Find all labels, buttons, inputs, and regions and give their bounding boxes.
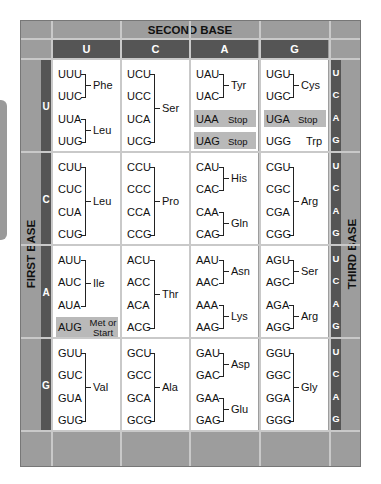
- codon: GGC: [266, 369, 291, 381]
- bracket: [219, 353, 224, 377]
- codon: UAG: [196, 135, 220, 147]
- codon-cell: UUUUUCUUAUUGPheLeu: [53, 60, 120, 151]
- bracket: [219, 398, 224, 422]
- side-tab[interactable]: [0, 100, 7, 240]
- amino-acid-label: Ile: [93, 277, 105, 289]
- stop-label: Stop: [228, 136, 248, 148]
- codon: CUG: [58, 228, 82, 240]
- codon-cell: GAUGACGAAGAGAspGlu: [191, 339, 258, 430]
- third-base-letter-c: C: [331, 89, 341, 100]
- bracket-tick: [224, 316, 229, 317]
- codon: UUC: [58, 90, 82, 102]
- first-base-bar-c: C: [41, 153, 51, 244]
- codon: GAG: [196, 414, 220, 426]
- first-base-label-text: FIRST BASE: [25, 220, 37, 288]
- third-base-label: THIRD BASE: [344, 199, 360, 309]
- amino-acid-label: Asn: [231, 265, 250, 277]
- codon: GUU: [58, 347, 82, 359]
- codon: UCG: [127, 135, 151, 147]
- codon: GGA: [266, 392, 290, 404]
- codon: CGA: [266, 206, 290, 218]
- codon: AGU: [266, 254, 290, 266]
- bracket: [81, 260, 86, 307]
- bracket: [81, 353, 86, 422]
- amino-acid-label: Leu: [93, 195, 111, 207]
- codon: AUG: [58, 321, 82, 333]
- first-base-bar-g: G: [41, 339, 51, 430]
- codon: UGG: [266, 135, 291, 147]
- bracket-tick: [294, 387, 299, 388]
- codon: AUC: [58, 276, 81, 288]
- amino-acid-label: Phe: [93, 79, 113, 91]
- codon: AUA: [58, 299, 81, 311]
- codon: CUC: [58, 183, 82, 195]
- codon: CUA: [58, 206, 81, 218]
- codon: AAU: [196, 254, 219, 266]
- codon: GCC: [127, 369, 151, 381]
- bracket: [289, 353, 294, 422]
- bracket: [219, 212, 224, 236]
- codon: UCC: [127, 90, 151, 102]
- codon-cell: AAUAACAAAAAGAsnLys: [191, 246, 258, 337]
- second-base-header-a: A: [191, 40, 258, 58]
- codon: CGC: [266, 183, 290, 195]
- third-base-bar: UCAG: [331, 246, 341, 337]
- bracket-tick: [224, 409, 229, 410]
- codon: CAA: [196, 206, 219, 218]
- amino-acid-label: Leu: [93, 124, 111, 136]
- codon-cell: UAUUACUAAStopUAGStopTyr: [191, 60, 258, 151]
- first-base-letter: U: [41, 100, 51, 111]
- bracket-tick: [224, 364, 229, 365]
- codon: GCU: [127, 347, 151, 359]
- stop-label: Stop: [228, 114, 248, 126]
- codon-cell: GGUGGCGGAGGGGly: [261, 339, 328, 430]
- third-base-letter-u: U: [331, 160, 341, 171]
- codon: CUU: [58, 161, 82, 173]
- codon-cell: CGUCGCCGACGGArg: [261, 153, 328, 244]
- bracket-tick: [155, 201, 160, 202]
- codon: AAC: [196, 276, 219, 288]
- bracket-tick: [294, 201, 299, 202]
- third-base-letter-u: U: [331, 67, 341, 78]
- amino-acid-label: Ala: [162, 381, 178, 393]
- codon: UGU: [266, 68, 290, 80]
- codon: AGA: [266, 299, 289, 311]
- amino-acid-label: Met or Start: [89, 318, 117, 338]
- bracket: [219, 305, 224, 329]
- bracket-tick: [294, 271, 299, 272]
- codon: ACA: [127, 299, 150, 311]
- bracket: [289, 74, 294, 98]
- codon: ACU: [127, 254, 150, 266]
- amino-acid-label: Trp: [306, 135, 322, 147]
- bracket: [219, 74, 224, 98]
- codon: UUU: [58, 68, 82, 80]
- third-base-letter-a: A: [331, 112, 341, 123]
- third-base-letter-g: G: [331, 134, 341, 145]
- amino-acid-label: Thr: [162, 288, 179, 300]
- third-base-letter-c: C: [331, 275, 341, 286]
- bracket-tick: [224, 271, 229, 272]
- amino-acid-label: Ser: [301, 265, 318, 277]
- bracket-tick: [224, 223, 229, 224]
- codon: CCU: [127, 161, 151, 173]
- codon: CCA: [127, 206, 150, 218]
- bracket-tick: [86, 387, 91, 388]
- codon: UCU: [127, 68, 151, 80]
- third-base-label-text: THIRD BASE: [346, 219, 358, 289]
- bracket: [81, 119, 86, 143]
- bracket-tick: [86, 130, 91, 131]
- codon: AUU: [58, 254, 81, 266]
- amino-acid-label: Asp: [231, 358, 250, 370]
- amino-acid-label: Cys: [301, 79, 320, 91]
- bracket: [150, 74, 155, 143]
- bracket: [289, 305, 294, 329]
- amino-acid-label: Tyr: [231, 79, 246, 91]
- codon-cell: AUUAUCAUAAUGMet or StartIle: [53, 246, 120, 337]
- first-base-label: FIRST BASE: [23, 199, 39, 309]
- codon: CAU: [196, 161, 219, 173]
- third-base-letter-a: A: [331, 298, 341, 309]
- codon: UUA: [58, 113, 81, 125]
- codon-cell: CCUCCCCCACCGPro: [122, 153, 189, 244]
- amino-acid-label: Ser: [162, 102, 179, 114]
- codon: CAC: [196, 183, 219, 195]
